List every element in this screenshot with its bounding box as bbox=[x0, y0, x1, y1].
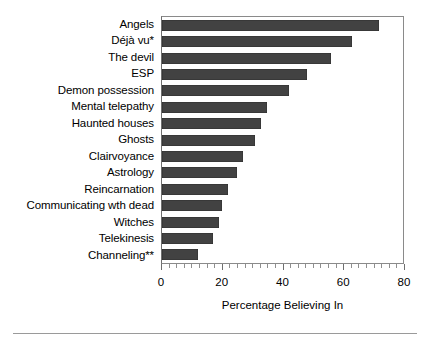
bar-row bbox=[162, 50, 403, 66]
x-tick-minor bbox=[214, 264, 215, 268]
x-tick-minor bbox=[245, 264, 246, 268]
bar bbox=[162, 53, 331, 64]
category-label: Demon possession bbox=[0, 82, 158, 99]
category-axis-labels: Angels Déjà vu* The devil ESP Demon poss… bbox=[0, 16, 158, 264]
x-tick-major bbox=[161, 264, 162, 270]
x-axis-ticks bbox=[161, 264, 404, 272]
x-tick-minor bbox=[267, 264, 268, 268]
bar bbox=[162, 69, 307, 80]
x-tick-label: 20 bbox=[215, 277, 228, 289]
category-label: ESP bbox=[0, 66, 158, 83]
x-tick-minor bbox=[305, 264, 306, 268]
x-tick-minor bbox=[184, 264, 185, 268]
x-tick-minor bbox=[351, 264, 352, 268]
x-tick-minor bbox=[237, 264, 238, 268]
x-tick-label: 60 bbox=[337, 277, 350, 289]
x-tick-minor bbox=[336, 264, 337, 268]
x-tick-major bbox=[222, 264, 223, 270]
bar-row bbox=[162, 247, 403, 263]
x-tick-minor bbox=[396, 264, 397, 268]
x-tick-minor bbox=[290, 264, 291, 268]
bar bbox=[162, 135, 255, 146]
bar bbox=[162, 36, 352, 47]
x-tick-minor bbox=[298, 264, 299, 268]
bar-row bbox=[162, 165, 403, 181]
x-tick-minor bbox=[358, 264, 359, 268]
bar-row bbox=[162, 115, 403, 131]
x-tick-label: 0 bbox=[158, 277, 164, 289]
x-tick-major bbox=[283, 264, 284, 270]
category-label: Witches bbox=[0, 214, 158, 231]
bar bbox=[162, 151, 243, 162]
bar bbox=[162, 167, 237, 178]
x-tick-minor bbox=[320, 264, 321, 268]
category-label: Channeling** bbox=[0, 247, 158, 264]
x-axis-title: Percentage Believing In bbox=[161, 300, 404, 312]
plot-area bbox=[161, 16, 404, 264]
bar bbox=[162, 85, 289, 96]
category-label: Déjà vu* bbox=[0, 33, 158, 50]
category-label: Mental telepathy bbox=[0, 99, 158, 116]
x-tick-minor bbox=[176, 264, 177, 268]
x-tick-minor bbox=[374, 264, 375, 268]
x-tick-minor bbox=[313, 264, 314, 268]
bar bbox=[162, 249, 198, 260]
x-tick-minor bbox=[366, 264, 367, 268]
bar-row bbox=[162, 148, 403, 164]
category-label: Reincarnation bbox=[0, 181, 158, 198]
bar-row bbox=[162, 132, 403, 148]
bar bbox=[162, 200, 222, 211]
category-label: Angels bbox=[0, 16, 158, 33]
x-tick-minor bbox=[389, 264, 390, 268]
x-tick-minor bbox=[191, 264, 192, 268]
bar bbox=[162, 118, 261, 129]
bar-chart-figure: Angels Déjà vu* The devil ESP Demon poss… bbox=[0, 0, 431, 348]
x-tick-minor bbox=[169, 264, 170, 268]
x-tick-minor bbox=[381, 264, 382, 268]
x-tick-major bbox=[404, 264, 405, 270]
x-tick-minor bbox=[207, 264, 208, 268]
bar-row bbox=[162, 33, 403, 49]
x-tick-label: 40 bbox=[276, 277, 289, 289]
category-label: The devil bbox=[0, 49, 158, 66]
bar-row bbox=[162, 181, 403, 197]
x-axis-tick-labels: 020406080 bbox=[0, 277, 431, 293]
x-tick-label: 80 bbox=[398, 277, 411, 289]
category-label: Communicating wth dead bbox=[0, 198, 158, 215]
bar-row bbox=[162, 214, 403, 230]
category-label: Ghosts bbox=[0, 132, 158, 149]
category-label: Telekinesis bbox=[0, 231, 158, 248]
bar-row bbox=[162, 197, 403, 213]
x-tick-minor bbox=[260, 264, 261, 268]
bar-row bbox=[162, 230, 403, 246]
x-tick-minor bbox=[199, 264, 200, 268]
bar bbox=[162, 102, 267, 113]
bar-row bbox=[162, 17, 403, 33]
bar-row bbox=[162, 99, 403, 115]
x-tick-minor bbox=[252, 264, 253, 268]
x-tick-minor bbox=[328, 264, 329, 268]
x-tick-major bbox=[343, 264, 344, 270]
bar bbox=[162, 184, 228, 195]
bar bbox=[162, 217, 219, 228]
footer-divider bbox=[13, 333, 417, 334]
category-label: Haunted houses bbox=[0, 115, 158, 132]
bar-row bbox=[162, 83, 403, 99]
bar-series bbox=[162, 17, 403, 263]
x-tick-minor bbox=[229, 264, 230, 268]
x-tick-minor bbox=[275, 264, 276, 268]
bar bbox=[162, 20, 379, 31]
category-label: Clairvoyance bbox=[0, 148, 158, 165]
bar-row bbox=[162, 66, 403, 82]
category-label: Astrology bbox=[0, 165, 158, 182]
bar bbox=[162, 233, 213, 244]
